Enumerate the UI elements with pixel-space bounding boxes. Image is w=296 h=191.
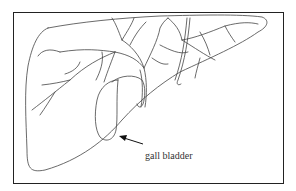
liver-diagram [0,0,296,191]
gall-bladder-label: gall bladder [145,150,192,161]
arrow-icon [119,135,143,144]
gall-bladder-outline [95,80,118,140]
